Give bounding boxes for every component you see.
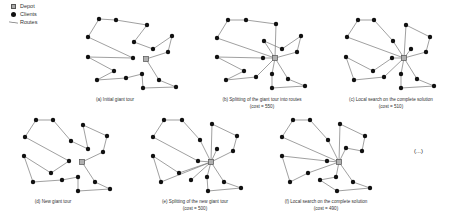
client-node	[261, 56, 265, 60]
client-node	[189, 178, 193, 182]
client-node	[174, 85, 178, 89]
client-node	[140, 72, 144, 76]
route-line	[88, 19, 176, 88]
route-line-icon	[8, 21, 17, 23]
panel-a-caption: (a) Initial giant tour	[55, 96, 175, 103]
client-node	[270, 86, 274, 90]
client-node	[286, 77, 290, 81]
caption-title: (d) New giant tour	[0, 198, 113, 205]
client-node	[132, 40, 136, 44]
panel-e	[151, 118, 243, 193]
client-node	[206, 189, 210, 193]
caption-cost: (cost = 510)	[331, 103, 451, 110]
client-node	[432, 84, 436, 88]
client-node	[215, 147, 219, 151]
client-node	[34, 118, 38, 122]
route-line	[207, 162, 241, 191]
client-node	[325, 159, 329, 163]
client-node	[108, 187, 112, 191]
client-node	[76, 175, 80, 179]
depot-node	[79, 159, 84, 164]
client-node	[356, 18, 360, 22]
caption-title: (f) Local search on the complete solutio…	[266, 198, 386, 205]
panel-d-caption: (d) New giant tour	[0, 198, 113, 205]
panel-c-caption: (c) Local search on the complete solutio…	[331, 96, 451, 110]
client-node	[280, 135, 284, 139]
client-node	[51, 118, 55, 122]
panel-a	[86, 17, 178, 90]
continuation-ellipsis: (...)	[414, 148, 423, 154]
client-node	[291, 118, 295, 122]
client-node	[280, 154, 284, 158]
client-node	[371, 69, 375, 73]
client-node	[166, 50, 170, 54]
client-node	[409, 47, 413, 51]
client-node	[344, 146, 348, 150]
depot-node	[272, 55, 277, 60]
client-node	[326, 138, 330, 142]
client-node	[363, 134, 367, 138]
route-line	[24, 120, 110, 191]
client-node	[162, 118, 166, 122]
client-dot-icon	[11, 12, 16, 17]
client-node	[170, 34, 174, 38]
client-node	[344, 55, 348, 59]
legend-depot: Depot	[6, 2, 37, 10]
client-node	[424, 50, 428, 54]
caption-cost: (cost = 500)	[135, 205, 255, 212]
client-node	[368, 186, 372, 190]
client-node	[222, 180, 226, 184]
route-line	[272, 58, 305, 88]
client-node	[239, 186, 243, 190]
client-node	[157, 78, 161, 82]
panel-d	[22, 118, 112, 193]
route-line	[153, 156, 211, 182]
client-node	[428, 35, 432, 39]
client-node	[404, 23, 408, 27]
vrp-diagram-canvas	[0, 0, 454, 220]
client-node	[151, 154, 155, 158]
client-node	[351, 180, 355, 184]
client-node	[180, 118, 184, 122]
panel-e-caption: (e) Splitting of the new giant tour (cos…	[135, 198, 255, 212]
client-node	[242, 69, 246, 73]
client-node	[69, 139, 73, 143]
client-node	[215, 36, 219, 40]
client-node	[215, 55, 219, 59]
caption-cost: (cost = 490)	[266, 205, 386, 212]
depot-node	[336, 159, 341, 164]
caption-cost: (cost = 550)	[202, 103, 322, 110]
depot-square-icon	[11, 4, 16, 9]
panel-c	[344, 18, 436, 90]
client-node	[399, 72, 403, 76]
client-node	[303, 84, 307, 88]
legend-clients-label: Clients	[20, 10, 37, 18]
client-node	[60, 178, 64, 182]
route-line	[211, 124, 237, 162]
client-node	[86, 55, 90, 59]
client-node	[224, 78, 228, 82]
client-node	[360, 149, 364, 153]
panel-b	[215, 18, 307, 90]
depot-node	[143, 56, 148, 61]
route-line	[217, 57, 275, 80]
caption-title: (e) Splitting of the new giant tour	[135, 198, 255, 205]
client-node	[399, 86, 403, 90]
client-node	[196, 159, 200, 163]
client-node	[390, 56, 394, 60]
client-node	[308, 118, 312, 122]
client-node	[114, 18, 118, 22]
legend: Depot Clients Routes	[6, 2, 37, 26]
client-node	[280, 47, 284, 51]
legend-depot-label: Depot	[20, 2, 35, 10]
client-node	[306, 171, 310, 175]
client-node	[23, 135, 27, 139]
client-node	[262, 39, 266, 43]
client-node	[86, 147, 90, 151]
client-node	[101, 150, 105, 154]
caption-title: (b) Splitting of the giant tour into rou…	[202, 96, 322, 103]
client-node	[288, 180, 292, 184]
client-node	[210, 122, 214, 126]
client-node	[86, 35, 90, 39]
client-node	[151, 47, 155, 51]
